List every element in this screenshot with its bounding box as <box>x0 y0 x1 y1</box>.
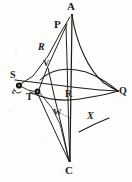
curve-arc-lower-lens <box>30 91 118 100</box>
point-label-X: X <box>87 111 94 121</box>
point-label-W: W <box>53 108 62 117</box>
node-dot-S-core <box>18 85 20 87</box>
point-label-P: P <box>54 19 61 30</box>
point-label-V: V <box>43 59 49 68</box>
point-label-Q: Q <box>119 86 127 96</box>
point-label-T: T <box>26 92 33 102</box>
point-label-A: A <box>67 1 75 12</box>
point-label-c: c <box>12 87 16 96</box>
curve-arc-A-to-Q <box>72 15 118 91</box>
point-label-R: R <box>65 89 72 99</box>
node-dot-C <box>69 160 71 162</box>
node-dot-A <box>71 14 73 16</box>
geometry-figure: A P R V S c T Q R W X C <box>0 0 132 182</box>
node-dot-T-core <box>37 91 39 93</box>
point-label-C: C <box>65 165 73 176</box>
segment-X-tick-mark <box>79 118 109 132</box>
segment-T-to-C <box>37 92 69 161</box>
point-label-S: S <box>10 70 16 80</box>
point-label-R-upper: R <box>38 42 45 52</box>
